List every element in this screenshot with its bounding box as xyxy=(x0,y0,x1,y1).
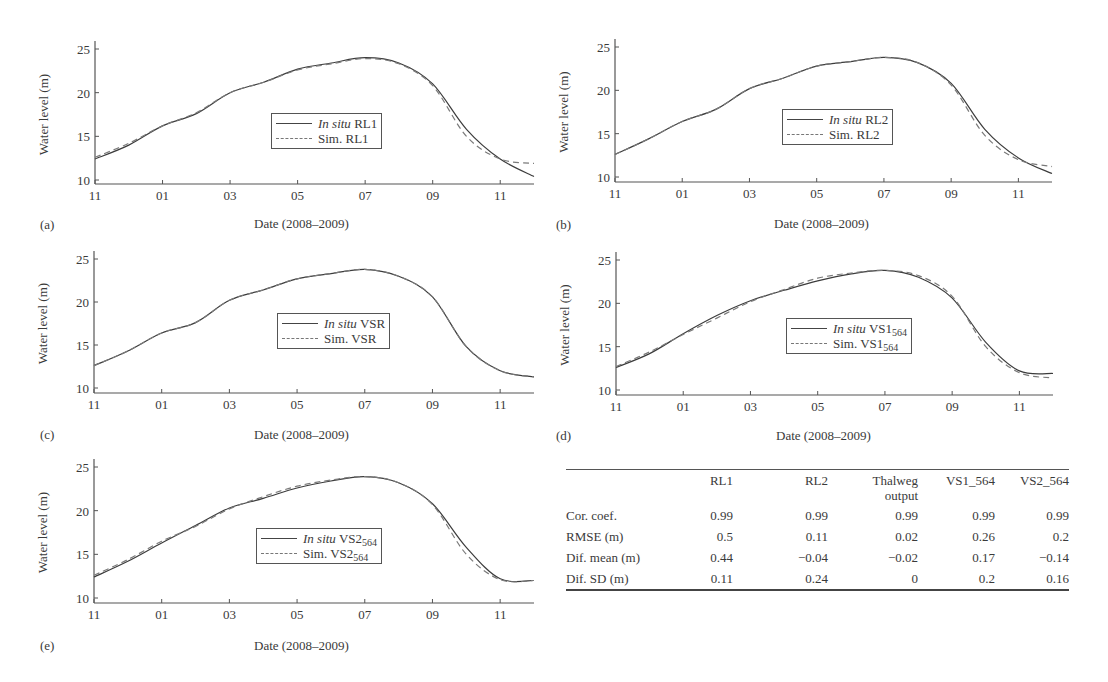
y-tick-label: 10 xyxy=(598,383,611,398)
legend-sim: Sim. VS1564 xyxy=(791,336,907,351)
y-axis-title: Water level (m) xyxy=(557,284,572,365)
panel-letter: (d) xyxy=(556,428,571,444)
table-row: Dif. SD (m) 0.11 0.24 0 0.2 0.16 xyxy=(566,568,1069,590)
solid-line-icon xyxy=(261,538,297,539)
solid-line-icon xyxy=(791,328,827,329)
x-tick-label: 03 xyxy=(744,399,757,414)
header-vs2: VS2_564 xyxy=(995,470,1069,506)
table-header-row: RL1 RL2 Thalweg output VS1_564 VS2_564 xyxy=(566,470,1069,506)
x-tick-label: 11 xyxy=(494,607,507,622)
x-tick-label: 07 xyxy=(878,399,892,414)
legend-d: In situ VS1564 Sim. VS1564 xyxy=(786,318,912,354)
x-tick-label: 09 xyxy=(946,399,959,414)
y-tick-label: 10 xyxy=(76,591,89,606)
x-tick-label: 11 xyxy=(610,399,623,414)
header-blank xyxy=(566,470,678,506)
chart-e: 1015202511010305070911Water level (m) xyxy=(0,0,550,682)
x-tick-label: 05 xyxy=(291,607,304,622)
x-tick-label: 11 xyxy=(1013,399,1026,414)
header-thalweg: Thalweg output xyxy=(828,470,918,506)
y-tick-label: 15 xyxy=(598,340,611,355)
x-axis-title: Date (2008–2009) xyxy=(254,638,349,654)
y-tick-label: 20 xyxy=(598,296,611,311)
legend-e: In situ VS2564 Sim. VS2564 xyxy=(256,528,382,564)
y-tick-label: 25 xyxy=(76,460,89,475)
legend-sim: Sim. VS2564 xyxy=(261,546,377,561)
header-rl1: RL1 xyxy=(678,470,733,506)
x-tick-label: 03 xyxy=(223,607,236,622)
y-tick-label: 25 xyxy=(598,253,611,268)
legend-insitu: In situ VS1564 xyxy=(791,321,907,336)
x-tick-label: 01 xyxy=(155,607,168,622)
dashed-line-icon xyxy=(261,553,297,554)
x-tick-label: 01 xyxy=(677,399,690,414)
x-tick-label: 05 xyxy=(811,399,824,414)
table-row: Cor. coef. 0.99 0.99 0.99 0.99 0.99 xyxy=(566,505,1069,526)
y-tick-label: 15 xyxy=(76,547,89,562)
panel-e: 1015202511010305070911Water level (m) In… xyxy=(0,0,550,682)
y-axis-title: Water level (m) xyxy=(35,492,50,573)
header-rl2: RL2 xyxy=(733,470,828,506)
y-tick-label: 20 xyxy=(76,504,89,519)
x-tick-label: 11 xyxy=(88,607,101,622)
legend-insitu: In situ VS2564 xyxy=(261,531,377,546)
x-tick-label: 09 xyxy=(426,607,439,622)
table-row: RMSE (m) 0.5 0.11 0.02 0.26 0.2 xyxy=(566,526,1069,547)
panel-letter: (e) xyxy=(40,638,54,654)
x-tick-label: 07 xyxy=(358,607,372,622)
statistics-table: RL1 RL2 Thalweg output VS1_564 VS2_564 C… xyxy=(566,469,1069,591)
x-axis-title: Date (2008–2009) xyxy=(776,428,871,444)
header-vs1: VS1_564 xyxy=(918,470,995,506)
table-row: Dif. mean (m) 0.44 −0.04 −0.02 0.17 −0.1… xyxy=(566,547,1069,568)
dashed-line-icon xyxy=(791,343,827,344)
